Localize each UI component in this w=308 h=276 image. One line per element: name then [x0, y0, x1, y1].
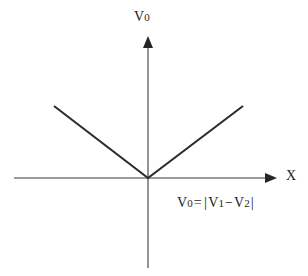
y-axis-label-subscript: 0 [144, 11, 150, 23]
y-axis-label-variable: V [134, 9, 144, 24]
formula-term2-variable: V [234, 195, 244, 210]
absolute-value-function-figure: V0 X V0=|V1−V2| [0, 0, 308, 276]
x-axis-arrowhead [265, 173, 277, 183]
formula-abs-bar-close: | [250, 194, 255, 210]
formula-lhs-subscript: 0 [187, 197, 193, 209]
formula-annotation: V0=|V1−V2| [177, 194, 255, 212]
y-axis-label: V0 [134, 9, 150, 25]
formula-equals-sign: = [193, 195, 203, 210]
plot-canvas [0, 0, 308, 276]
formula-lhs-variable: V [177, 195, 187, 210]
y-axis-arrowhead [143, 36, 153, 48]
x-axis-label: X [286, 168, 296, 183]
formula-term1-variable: V [208, 195, 218, 210]
formula-minus-sign: − [224, 195, 234, 210]
